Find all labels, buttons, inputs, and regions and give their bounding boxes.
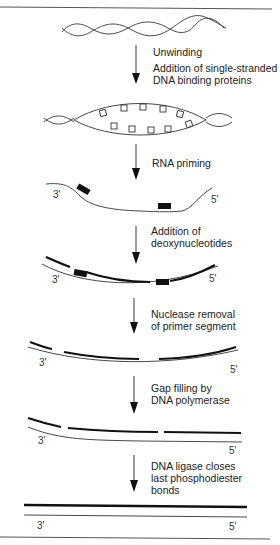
label-rna-priming: RNA priming [152, 157, 211, 169]
arrow-1 [132, 45, 140, 84]
end-3prime-stage6: 3' [38, 435, 45, 446]
unwound-bubble [44, 104, 232, 136]
end-5prime-stage7: 5' [229, 521, 236, 532]
label-unwinding: Unwinding [153, 46, 202, 58]
double-helix [62, 16, 226, 36]
primer-a [74, 269, 88, 277]
arrow-5 [130, 376, 138, 414]
ligated-duplex [24, 505, 247, 517]
end-3prime-stage3: 3' [53, 189, 60, 200]
end-3prime-stage4: 3' [52, 274, 59, 285]
template-strand-primed [46, 183, 212, 211]
label-nuclease: Nuclease removal of primer segment [151, 308, 236, 332]
arrow-3 [132, 226, 140, 264]
arrow-6 [130, 455, 138, 492]
label-gap-filling: Gap filling by DNA polymerase [151, 382, 230, 406]
bottom-rule [0, 537, 270, 539]
elongation-strands [42, 257, 218, 283]
label-ssb: Addition of single-stranded DNA binding … [153, 62, 277, 86]
arrow-2 [132, 144, 140, 180]
end-5prime-stage4: 5' [209, 273, 216, 284]
end-5prime-stage6: 5' [229, 445, 236, 456]
label-elongation: Addition of deoxynucleotides [151, 225, 232, 249]
rna-primer-2 [158, 203, 171, 209]
end-3prime-stage7: 3' [37, 520, 44, 531]
rna-primer-1 [76, 183, 90, 195]
primer-removed-strands [28, 342, 238, 362]
gap-filled-strands [28, 418, 242, 442]
arrow-4 [130, 298, 138, 334]
end-5prime-stage3: 5' [211, 194, 218, 205]
top-rule [0, 7, 272, 9]
end-5prime-stage5: 5' [230, 364, 237, 375]
primer-b [156, 279, 169, 285]
end-3prime-stage5: 3' [39, 357, 46, 368]
label-ligase: DNA ligase closes last phosphodiester bo… [151, 460, 242, 496]
